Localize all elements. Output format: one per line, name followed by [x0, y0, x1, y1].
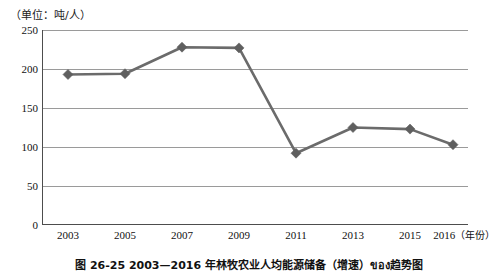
x-tick-2015: 2015	[399, 229, 421, 241]
x-tick-2003: 2003	[57, 229, 79, 241]
y-tick-50: 50	[4, 181, 38, 192]
axes	[42, 30, 468, 225]
figure-caption: 图 26-25 2003—2016 年林牧农业人均能源储备（增速）ของ趋势图	[0, 259, 498, 272]
data-markers	[63, 42, 458, 158]
x-tick-2013: 2013	[342, 229, 364, 241]
chart-figure: （单位：吨/人） 250 200 150 100 50 0	[0, 0, 498, 272]
x-tick-2016: 2016（年份）	[433, 229, 495, 242]
x-tick-2016-year: 2016	[433, 229, 455, 241]
x-tick-2007: 2007	[171, 229, 193, 241]
data-line	[68, 47, 453, 153]
y-axis-unit-label: （单位：吨/人）	[10, 6, 91, 22]
y-axis-tick-labels: 250 200 150 100 50 0	[0, 30, 38, 225]
data-point-2016	[448, 140, 458, 150]
data-point-2003	[63, 70, 73, 80]
y-tick-250: 250	[4, 25, 38, 36]
data-point-2009	[234, 43, 244, 53]
x-tick-2009: 2009	[228, 229, 250, 241]
y-tick-150: 150	[4, 103, 38, 114]
data-point-2015	[405, 124, 415, 134]
data-point-2011	[291, 148, 301, 158]
y-tick-0: 0	[4, 220, 38, 231]
x-tick-2011: 2011	[285, 229, 307, 241]
x-axis-tick-labels: 2003 2005 2007 2009 2011 2013 2015 2016（…	[42, 229, 498, 245]
y-tick-100: 100	[4, 142, 38, 153]
line-chart-svg	[42, 30, 468, 225]
plot-area	[42, 30, 468, 225]
gridlines	[42, 31, 468, 187]
x-tick-2005: 2005	[114, 229, 136, 241]
data-point-2005	[120, 69, 130, 79]
data-point-2007	[177, 42, 187, 52]
y-tick-200: 200	[4, 64, 38, 75]
data-point-2013	[348, 123, 358, 133]
x-axis-unit-label: （年份）	[455, 230, 495, 241]
